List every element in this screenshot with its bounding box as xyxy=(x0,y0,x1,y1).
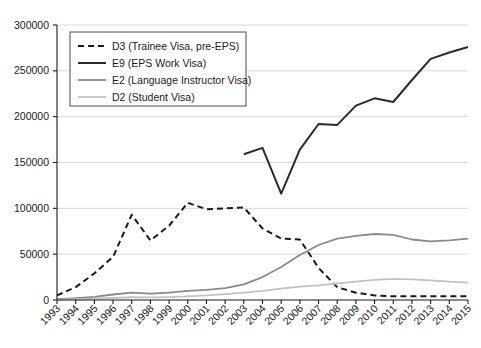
y-tick-label: 300000 xyxy=(14,19,49,31)
legend-label-d2: D2 (Student Visa) xyxy=(112,91,195,103)
legend: D3 (Trainee Visa, pre-EPS)E9 (EPS Work V… xyxy=(70,32,251,106)
y-tick-label: 50000 xyxy=(20,248,49,260)
y-tick-label: 150000 xyxy=(14,156,49,168)
legend-label-e2: E2 (Language Instructor Visa) xyxy=(112,74,251,86)
chart-container: 050000100000150000200000250000300000 199… xyxy=(0,0,481,348)
legend-label-e9: E9 (EPS Work Visa) xyxy=(112,57,206,69)
y-tick-label: 100000 xyxy=(14,202,49,214)
y-tick-label: 200000 xyxy=(14,110,49,122)
y-tick-label: 0 xyxy=(43,294,49,306)
legend-label-d3: D3 (Trainee Visa, pre-EPS) xyxy=(112,40,239,52)
line-chart: 050000100000150000200000250000300000 199… xyxy=(0,0,481,348)
y-tick-label: 250000 xyxy=(14,64,49,76)
